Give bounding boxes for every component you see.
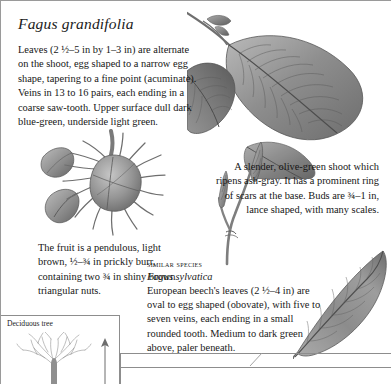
shoot-description-text: A slender, olive-green shoot which ripen… — [213, 160, 379, 218]
deciduous-tree-icon — [15, 332, 93, 384]
bottom-panel-divider — [121, 367, 391, 384]
field-guide-page: Fagus grandifolia Leaves (2 ½–5 in by 1–… — [0, 0, 391, 384]
leader-line-icon — [249, 353, 263, 367]
beech-burr-and-nuts-illustration — [35, 129, 175, 241]
height-scale-arrow-icon — [100, 338, 110, 384]
habit-label: Deciduous tree — [7, 319, 53, 329]
similar-species-latin-name: Fagus sylvatica — [147, 270, 325, 284]
similar-species-heading: Similar species — [147, 259, 325, 270]
habit-panel: Deciduous tree — [1, 315, 120, 384]
similar-species-block: Similar species Fagus sylvatica European… — [147, 259, 325, 356]
similar-species-description: European beech's leaves (2 ½–4 in) are o… — [147, 284, 325, 356]
page-title: Fagus grandifolia — [18, 15, 134, 33]
leaf-description-text: Leaves (2 ½–5 in by 1–3 in) are alternat… — [18, 43, 201, 129]
